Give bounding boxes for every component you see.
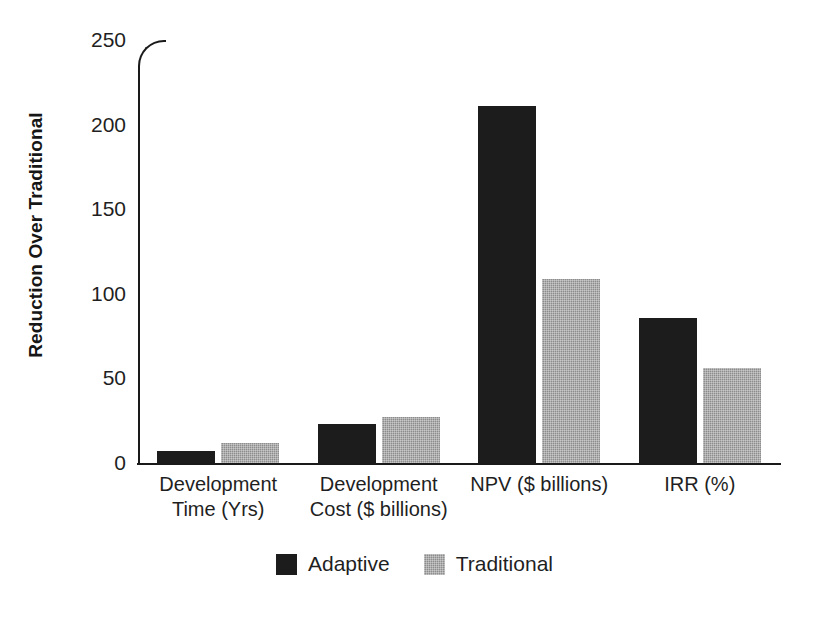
legend-swatch-icon xyxy=(276,554,297,575)
y-axis-title: Reduction Over Traditional xyxy=(12,0,60,470)
bar-group xyxy=(478,40,600,463)
bar-traditional xyxy=(542,279,600,463)
bar-traditional xyxy=(221,443,279,463)
bar-adaptive xyxy=(639,318,697,464)
y-tick-label: 150 xyxy=(91,197,126,221)
bar-group xyxy=(157,40,279,463)
bar-traditional xyxy=(703,368,761,463)
y-axis-tick-labels: 050100150200250 xyxy=(60,0,138,621)
chart-figure: Reduction Over Traditional 0501001502002… xyxy=(0,0,829,621)
x-category-label-line: Cost ($ billions) xyxy=(279,497,480,522)
x-category-label: IRR (%) xyxy=(600,472,801,497)
bar-group xyxy=(318,40,440,463)
bar-group xyxy=(639,40,761,463)
y-axis-title-text: Reduction Over Traditional xyxy=(25,112,47,357)
y-tick-label: 200 xyxy=(91,113,126,137)
bar-traditional xyxy=(382,417,440,463)
bar-adaptive xyxy=(318,424,376,463)
y-tick-label: 50 xyxy=(103,366,126,390)
x-category-label-line: IRR (%) xyxy=(600,472,801,497)
plot-area xyxy=(138,40,780,463)
bar-adaptive xyxy=(157,451,215,463)
bars-layer xyxy=(138,40,780,463)
y-tick-label: 250 xyxy=(91,28,126,52)
legend-label: Traditional xyxy=(456,552,553,576)
legend-entry-adaptive[interactable]: Adaptive xyxy=(276,552,390,576)
legend-label: Adaptive xyxy=(308,552,390,576)
legend-entry-traditional[interactable]: Traditional xyxy=(424,552,553,576)
x-axis-category-labels: DevelopmentTime (Yrs)DevelopmentCost ($ … xyxy=(138,472,780,530)
bar-adaptive xyxy=(478,106,536,463)
legend-swatch-icon xyxy=(424,554,445,575)
y-tick-label: 100 xyxy=(91,282,126,306)
chart-legend: AdaptiveTraditional xyxy=(0,552,829,576)
